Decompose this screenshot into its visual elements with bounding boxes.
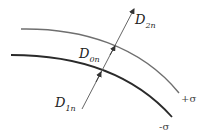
label-d2n: D2n: [134, 12, 156, 30]
arrow-upper-intersection: [110, 46, 115, 55]
label-minus-sigma: -σ: [159, 121, 169, 132]
diagram-canvas: D2n D0n D1n +σ -σ: [0, 0, 209, 134]
label-d1n: D1n: [54, 95, 76, 113]
label-d0n: D0n: [78, 46, 100, 64]
label-plus-sigma: +σ: [181, 93, 196, 104]
upper-surface-curve: [21, 29, 179, 93]
arrow-lower-intersection: [96, 72, 101, 82]
